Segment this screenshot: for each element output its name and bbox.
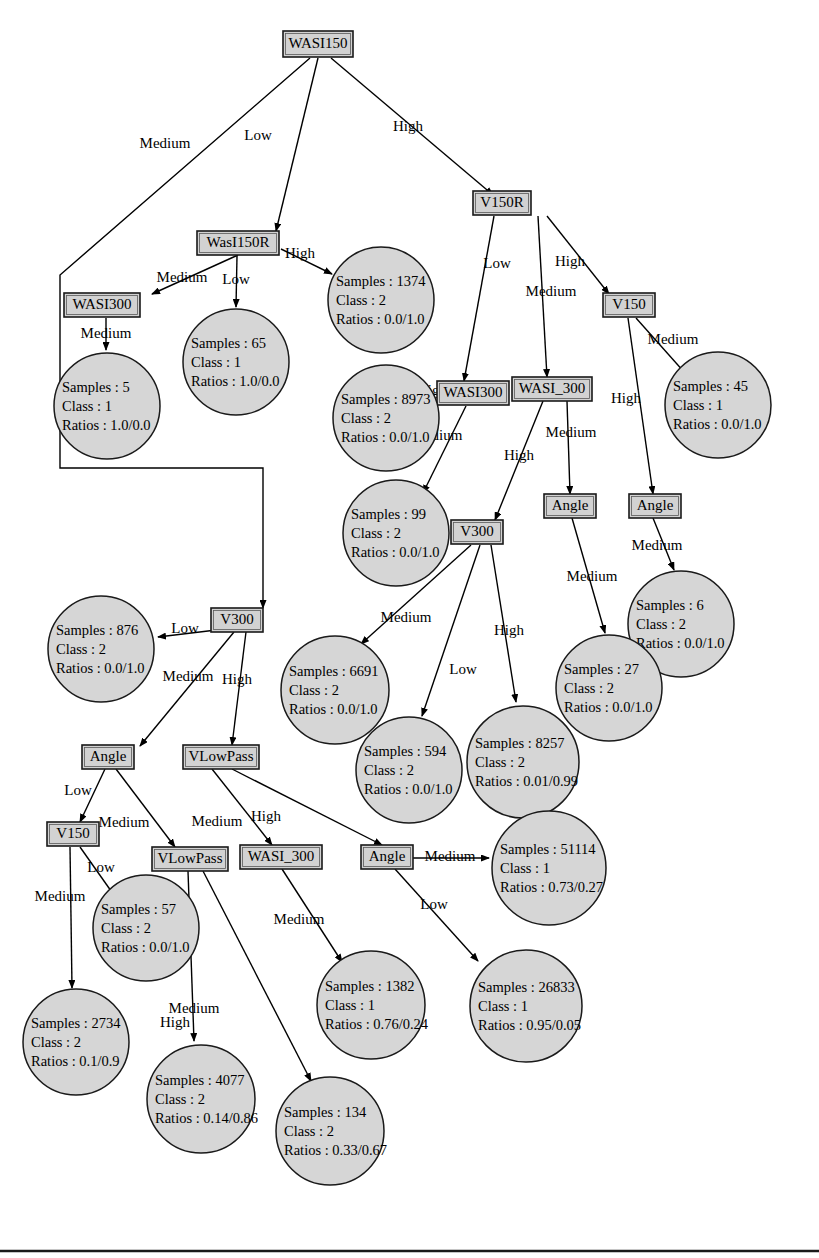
decision-node[interactable]: V150: [603, 293, 655, 317]
leaf-class-text: Class : 1: [478, 998, 528, 1014]
edge-label: Low: [64, 782, 92, 798]
edge-label: Medium: [81, 325, 132, 341]
leaf-class-text: Class : 2: [101, 920, 151, 936]
decision-node-label: V150: [612, 296, 645, 312]
leaf-ratios-text: Ratios : 0.0/1.0: [101, 939, 190, 955]
decision-node-label: Angle: [369, 848, 406, 864]
leaf-samples-text: Samples : 6: [636, 597, 704, 613]
leaf-class-text: Class : 2: [364, 762, 414, 778]
leaf-class-text: Class : 1: [191, 354, 241, 370]
leaf-ratios-text: Ratios : 0.0/1.0: [636, 635, 725, 651]
decision-node[interactable]: V150R: [473, 191, 531, 215]
leaf-class-text: Class : 2: [289, 682, 339, 698]
edge-label: High: [222, 671, 253, 687]
leaf-samples-text: Samples : 594: [364, 743, 447, 759]
decision-node[interactable]: Angle: [361, 845, 413, 869]
edge-label: High: [393, 118, 424, 134]
leaf-node[interactable]: Samples : 26833Class : 1Ratios : 0.95/0.…: [470, 950, 582, 1062]
leaf-class-text: Class : 2: [155, 1091, 205, 1107]
leaf-node[interactable]: Samples : 8973Class : 2Ratios : 0.0/1.0: [333, 365, 439, 471]
decision-node[interactable]: V300: [211, 608, 263, 632]
edge-label: Medium: [546, 424, 597, 440]
decision-node[interactable]: VLowPass: [183, 745, 259, 769]
leaf-node[interactable]: Samples : 8257Class : 2Ratios : 0.01/0.9…: [467, 706, 579, 818]
decision-node-label: Angle: [552, 497, 589, 513]
decision-node[interactable]: WASI150: [283, 31, 353, 57]
decision-node[interactable]: Angle: [629, 494, 681, 518]
decision-node[interactable]: WASI_300: [512, 377, 592, 401]
leaf-samples-text: Samples : 1374: [336, 273, 426, 289]
leaf-node[interactable]: Samples : 2734Class : 2Ratios : 0.1/0.9: [23, 989, 129, 1095]
edge-label: High: [504, 447, 535, 463]
leaf-ratios-text: Ratios : 0.0/1.0: [364, 781, 453, 797]
decision-node[interactable]: WASI300: [64, 293, 140, 317]
leaf-ratios-text: Ratios : 0.76/0.24: [325, 1016, 429, 1032]
decision-node[interactable]: V150: [47, 822, 99, 846]
decision-node-label: V300: [460, 523, 493, 539]
edge-label: Medium: [567, 568, 618, 584]
leaf-class-text: Class : 2: [284, 1123, 334, 1139]
edge-label: Low: [449, 661, 477, 677]
leaf-node[interactable]: Samples : 99Class : 2Ratios : 0.0/1.0: [343, 480, 449, 586]
leaf-samples-text: Samples : 6691: [289, 663, 378, 679]
leaf-class-text: Class : 1: [500, 860, 550, 876]
leaf-node[interactable]: Samples : 65Class : 1Ratios : 1.0/0.0: [183, 309, 289, 415]
leaf-node[interactable]: Samples : 5Class : 1Ratios : 1.0/0.0: [54, 353, 160, 459]
decision-node[interactable]: WASI_300: [240, 845, 322, 869]
leaf-node[interactable]: Samples : 1374Class : 2Ratios : 0.0/1.0: [328, 247, 434, 353]
edge-label: Low: [483, 255, 511, 271]
leaf-node[interactable]: Samples : 45Class : 1Ratios : 0.0/1.0: [665, 352, 771, 458]
edge-label: Medium: [163, 668, 214, 684]
edge-label: Medium: [157, 269, 208, 285]
decision-node[interactable]: WasI150R: [197, 231, 279, 255]
leaf-class-text: Class : 2: [351, 525, 401, 541]
leaf-class-text: Class : 2: [56, 641, 106, 657]
leaf-node[interactable]: Samples : 876Class : 2Ratios : 0.0/1.0: [48, 596, 154, 702]
leaf-samples-text: Samples : 65: [191, 335, 266, 351]
leaf-node[interactable]: Samples : 594Class : 2Ratios : 0.0/1.0: [356, 717, 462, 823]
leaf-ratios-text: Ratios : 0.0/1.0: [564, 699, 653, 715]
leaf-node[interactable]: Samples : 1382Class : 1Ratios : 0.76/0.2…: [317, 951, 429, 1059]
leaf-ratios-text: Ratios : 0.0/1.0: [56, 660, 145, 676]
leaf-ratios-text: Ratios : 0.01/0.99: [475, 773, 578, 789]
leaf-samples-text: Samples : 4077: [155, 1072, 244, 1088]
tree-edge: [212, 769, 272, 845]
leaf-node[interactable]: Samples : 134Class : 2Ratios : 0.33/0.67: [276, 1077, 387, 1185]
decision-node[interactable]: Angle: [82, 745, 134, 769]
edge-label: High: [555, 253, 586, 269]
leaf-class-text: Class : 2: [336, 292, 386, 308]
decision-node-label: WASI300: [443, 384, 502, 400]
leaf-samples-text: Samples : 8257: [475, 735, 564, 751]
tree-edge: [464, 216, 494, 381]
edge-label: High: [251, 808, 282, 824]
decision-node[interactable]: WASI300: [437, 381, 509, 405]
leaf-node[interactable]: Samples : 57Class : 2Ratios : 0.0/1.0: [93, 875, 199, 981]
leaf-node[interactable]: Samples : 4077Class : 2Ratios : 0.14/0.8…: [147, 1045, 258, 1153]
decision-node[interactable]: V300: [451, 520, 503, 544]
edge-label: High: [494, 622, 525, 638]
decision-node-label: V150R: [480, 194, 523, 210]
leaf-ratios-text: Ratios : 0.33/0.67: [284, 1142, 387, 1158]
tree-edge: [116, 769, 175, 847]
decision-node-label: WASI150: [288, 35, 347, 51]
leaf-node[interactable]: Samples : 51114Class : 1Ratios : 0.73/0.…: [492, 811, 606, 925]
tree-edge: [70, 847, 72, 988]
decision-node-label: WASI_300: [519, 380, 586, 396]
leaf-ratios-text: Ratios : 0.0/1.0: [673, 416, 762, 432]
leaf-class-text: Class : 2: [341, 410, 391, 426]
leaf-samples-text: Samples : 27: [564, 661, 639, 677]
decision-node[interactable]: VLowPass: [152, 847, 228, 871]
leaf-samples-text: Samples : 8973: [341, 391, 430, 407]
leaf-samples-text: Samples : 99: [351, 506, 426, 522]
edge-label: Low: [420, 896, 448, 912]
leaf-class-text: Class : 1: [673, 397, 723, 413]
edge-label: High: [611, 390, 642, 406]
leaf-node[interactable]: Samples : 27Class : 2Ratios : 0.0/1.0: [556, 635, 662, 741]
leaf-node[interactable]: Samples : 6691Class : 2Ratios : 0.0/1.0: [281, 636, 389, 744]
decision-node[interactable]: Angle: [544, 494, 596, 518]
leaf-samples-text: Samples : 2734: [31, 1015, 121, 1031]
tree-edge: [276, 58, 318, 231]
edge-label: Medium: [140, 135, 191, 151]
decision-node-label: WASI_300: [248, 848, 315, 864]
diagram-canvas: MediumLowHighMediumLowHighMediumLowMediu…: [0, 0, 819, 1258]
